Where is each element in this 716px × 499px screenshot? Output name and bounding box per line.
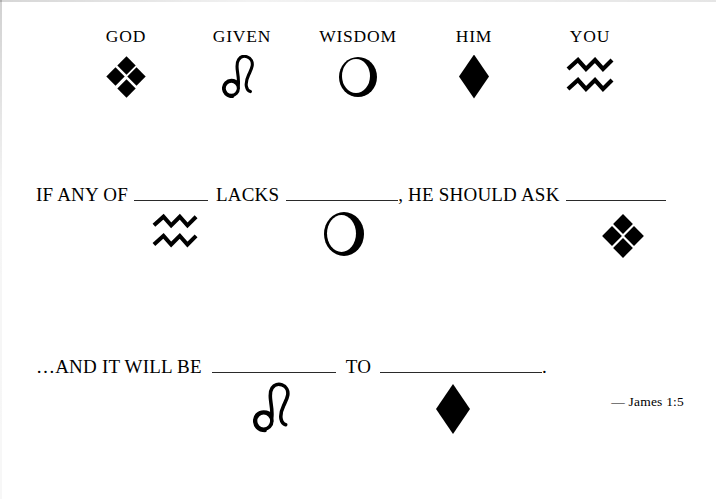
verse-line-2-blank-2[interactable] [380, 358, 542, 373]
symbol-legend: GOD GIVEN WISDOM [0, 28, 716, 99]
worksheet-page: GOD GIVEN WISDOM [0, 0, 716, 499]
aquarius-waves-icon [566, 55, 614, 99]
verse-line-2: …AND IT WILL BE TO . [36, 357, 684, 376]
legend-item-wisdom: WISDOM [300, 28, 416, 99]
verse-line-2-segment-1: …AND IT WILL BE [36, 357, 202, 376]
answer-god-diamonds [587, 216, 659, 256]
legend-item-him: HIM [416, 28, 532, 99]
verse-line-1-segment-1: IF ANY OF [36, 185, 128, 204]
legend-item-you: YOU [532, 28, 648, 99]
legend-item-given: GIVEN [184, 28, 300, 99]
answer-given-leo [240, 382, 312, 434]
verse-line-1-segment-3: , HE SHOULD ASK [398, 185, 559, 204]
verse-line-2-blank-1[interactable] [212, 358, 336, 373]
verse-line-1-segment-2: LACKS [216, 185, 279, 204]
four-diamond-cluster-icon [107, 55, 145, 99]
legend-label-him: HIM [456, 28, 492, 46]
legend-label-you: YOU [570, 28, 610, 46]
answer-wisdom-eclipse [308, 212, 380, 256]
answer-him-diamond [417, 384, 489, 434]
verse-line-2-segment-2: TO [346, 357, 371, 376]
verse-line-1-blank-1[interactable] [134, 186, 208, 201]
legend-label-wisdom: WISDOM [319, 28, 397, 46]
verse-citation: — James 1:5 [611, 394, 684, 410]
legend-label-god: GOD [106, 28, 146, 46]
legend-item-god: GOD [68, 28, 184, 99]
verse-line-1-blank-2[interactable] [286, 186, 398, 201]
solid-diamond-icon [459, 55, 489, 99]
verse-line-2-segment-3: . [542, 357, 547, 376]
answer-you-aquarius [139, 213, 211, 253]
verse-line-1-blank-3[interactable] [566, 186, 666, 201]
verse-line-1: IF ANY OF LACKS , HE SHOULD ASK [36, 185, 684, 204]
eclipse-crescent-icon [339, 55, 377, 99]
legend-label-given: GIVEN [213, 28, 271, 46]
leo-zodiac-icon [222, 55, 262, 99]
